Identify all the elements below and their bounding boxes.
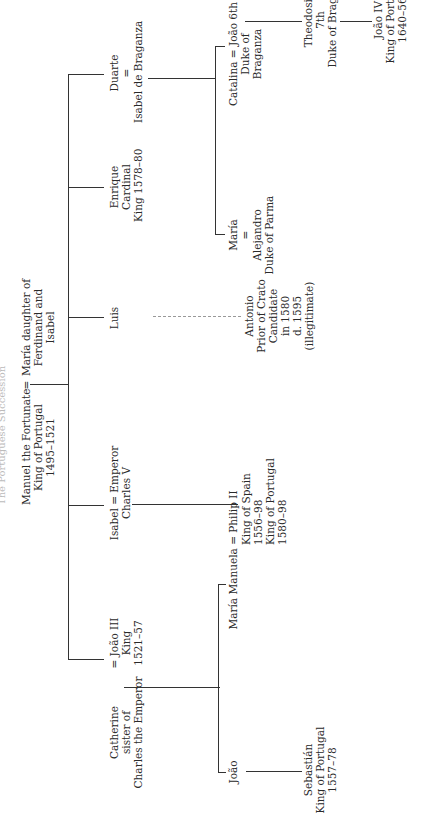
- name: Luis: [108, 301, 120, 335]
- title: King of Spain: [240, 463, 252, 545]
- relation: sister of: [120, 675, 132, 790]
- title: Duke of Braganza: [326, 0, 338, 70]
- title: King: [120, 607, 132, 679]
- stub-duarte: [68, 74, 104, 75]
- node-theodosio: Theodosio 7th Duke of Braganza: [302, 0, 338, 70]
- marriage-sign: =: [239, 195, 251, 275]
- name: = João III: [108, 607, 120, 679]
- name: Isabel = Emperor: [108, 443, 120, 543]
- title: Prior of Crato: [255, 268, 267, 364]
- name: Antonio: [243, 268, 255, 364]
- stub-maria-manuela: [218, 584, 226, 585]
- node-enrique: Enrique Cardinal King 1578–80: [108, 152, 144, 222]
- title: King of Portugal: [384, 0, 396, 70]
- node-maria-manuela: María Manuela = Philip II: [227, 480, 239, 640]
- duarte-children-bar: [215, 47, 216, 235]
- name: João IV: [372, 0, 384, 70]
- node-manuel: Manuel the Fortunate King of Portugal 14…: [20, 390, 56, 505]
- chart-title: The Portuguese Succession: [0, 366, 7, 505]
- isabel-descent: [132, 504, 238, 505]
- relation: Charles the Emperor: [132, 675, 144, 790]
- title: Duke of Parma: [263, 195, 275, 275]
- stub-isabel: [68, 505, 104, 506]
- stub-luis: [68, 317, 104, 318]
- name: María Manuela = Philip II: [227, 480, 239, 640]
- name: Duarte: [108, 23, 120, 123]
- name: Manuel the Fortunate: [20, 390, 32, 505]
- stub-joao: [218, 772, 226, 773]
- root-descent: [30, 384, 68, 385]
- joao3-children-bar: [218, 585, 219, 773]
- name: María: [227, 195, 239, 275]
- reign: King 1578–80: [132, 152, 144, 222]
- name: Catalina = João 6th: [227, 0, 239, 110]
- illegitimate-link: [153, 316, 241, 317]
- stub-maria: [215, 234, 225, 235]
- node-catalina: Catalina = João 6th Duke of Braganza: [227, 0, 263, 110]
- name: Theodosio: [302, 0, 314, 70]
- title: King of Portugal: [32, 390, 44, 505]
- node-philip: King of Spain 1556–98 King of Portugal 1…: [240, 463, 288, 545]
- node-maria: María = Alejandro Duke of Parma: [227, 195, 275, 275]
- marriage-sign-root: =: [20, 380, 32, 390]
- spouse: Isabel de Braganza: [132, 23, 144, 123]
- name: Enrique: [108, 152, 120, 222]
- name: María daughter of: [20, 275, 32, 380]
- name: João: [227, 754, 239, 790]
- node-joao: João: [227, 754, 239, 790]
- sibling-bar: [68, 75, 69, 660]
- parentage: Ferdinand and: [32, 275, 44, 380]
- name: Catherine: [108, 675, 120, 790]
- death: d. 1595: [291, 268, 303, 364]
- stub-joao3: [68, 659, 104, 660]
- node-maria-root: María daughter of Ferdinand and Isabel: [20, 275, 56, 380]
- node-joao4: João IV King of Portugal 1640–56: [372, 0, 408, 70]
- dates: 1557–78: [326, 720, 338, 817]
- joao3-descent: [124, 687, 220, 688]
- duarte-descent: [148, 78, 215, 79]
- catalina-descent: [245, 21, 302, 22]
- node-sebastian: Sebastián King of Portugal 1557–78: [302, 720, 338, 817]
- node-luis: Luis: [108, 301, 120, 335]
- dates: 1495–1521: [44, 390, 56, 505]
- marriage-sign: =: [120, 23, 132, 123]
- dates: 1580–98: [276, 463, 288, 545]
- title: Braganza: [251, 0, 263, 110]
- node-joao3: = João III King 1521–57: [108, 607, 144, 679]
- ordinal: 7th: [314, 0, 326, 70]
- stub-enrique: [68, 187, 104, 188]
- note: Candidate: [267, 268, 279, 364]
- note: in 1580: [279, 268, 291, 364]
- name: Sebastián: [302, 720, 314, 817]
- title: Cardinal: [120, 152, 132, 222]
- node-catherine: Catherine sister of Charles the Emperor: [108, 675, 144, 790]
- dates: 1640–56: [396, 0, 408, 70]
- spouse: Charles V: [120, 443, 132, 543]
- spouse: Alejandro: [251, 195, 263, 275]
- joao-descent: [246, 771, 302, 772]
- node-isabel: Isabel = Emperor Charles V: [108, 443, 132, 543]
- node-antonio: Antonio Prior of Crato Candidate in 1580…: [243, 268, 315, 364]
- title: Duke of: [239, 0, 251, 110]
- parentage: Isabel: [44, 275, 56, 380]
- dates: 1521–57: [132, 607, 144, 679]
- dates: 1556–98: [252, 463, 264, 545]
- node-duarte: Duarte = Isabel de Braganza: [108, 23, 144, 123]
- theodosio-descent: [340, 21, 372, 22]
- stub-catalina: [215, 46, 225, 47]
- title: King of Portugal: [314, 720, 326, 817]
- title: King of Portugal: [264, 463, 276, 545]
- note: (illegitimate): [303, 268, 315, 364]
